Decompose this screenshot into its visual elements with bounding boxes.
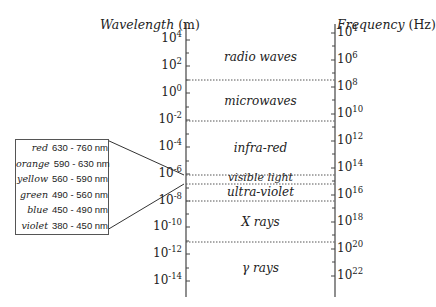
band-gamma-rays: γ rays [186,261,335,275]
frequency-tick: 1020 [337,241,363,255]
wavelength-tick: 102 [122,58,182,72]
legend-range: 450 - 490 nm [52,202,108,218]
frequency-tick: 1018 [337,214,363,228]
wavelength-title-text: Wavelength [100,17,174,32]
band-infra-red: infra-red [186,141,335,155]
frequency-tick: 1012 [337,133,363,147]
wavelength-tick: 10-4 [122,139,182,153]
legend-range: 380 - 450 nm [52,218,108,234]
legend-row-red: red630 - 760 nm [16,140,108,156]
band-radio-waves: radio waves [186,50,335,64]
frequency-tick: 104 [337,25,358,39]
legend-row-blue: blue450 - 490 nm [16,202,108,218]
wavelength-tick: 10-14 [122,273,182,287]
frequency-tick: 1022 [337,268,363,282]
legend-color-name: violet [16,218,52,234]
wavelength-tick: 100 [122,85,182,99]
legend-color-name: red [16,140,52,156]
band-x-rays: X rays [186,215,335,229]
legend-range: 490 - 560 nm [52,187,108,203]
wavelength-tick: 10-6 [122,166,182,180]
visible-light-legend: red630 - 760 nm orange590 - 630 nm yello… [15,139,109,235]
legend-row-green: green490 - 560 nm [16,187,108,203]
legend-color-name: yellow [16,171,52,187]
frequency-tick: 1010 [337,106,363,120]
legend-range: 630 - 760 nm [52,140,108,156]
legend-range: 560 - 590 nm [52,171,108,187]
legend-row-yellow: yellow560 - 590 nm [16,171,108,187]
frequency-tick: 108 [337,79,358,93]
frequency-unit: (Hz) [409,17,436,32]
wavelength-tick: 10-12 [122,246,182,260]
legend-row-orange: orange590 - 630 nm [16,156,108,172]
legend-color-name: blue [16,202,52,218]
wavelength-tick: 10-10 [122,219,182,233]
legend-range: 590 - 630 nm [54,156,110,172]
legend-color-name: orange [16,156,54,172]
wavelength-tick: 104 [122,31,182,45]
legend-row-violet: violet380 - 450 nm [16,218,108,234]
band-ultra-violet: ultra-violet [186,185,335,199]
frequency-tick: 1014 [337,160,363,174]
frequency-tick: 106 [337,52,358,66]
wavelength-tick: 10-2 [122,112,182,126]
band-visible-light: visible light [186,171,335,184]
frequency-tick: 1016 [337,187,363,201]
wavelength-tick: 10-8 [122,193,182,207]
wavelength-axis-title: Wavelength (m) [100,17,200,32]
band-microwaves: microwaves [186,94,335,108]
legend-color-name: green [16,187,52,203]
